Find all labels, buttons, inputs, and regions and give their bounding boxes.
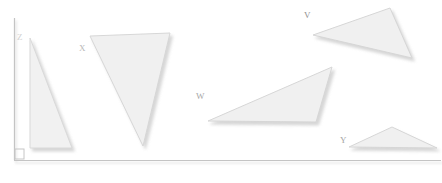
- triangle-w-shape[interactable]: [208, 67, 332, 122]
- figure-svg: [0, 0, 442, 183]
- triangle-y-label: Y: [340, 136, 347, 145]
- triangle-w-label: W: [196, 92, 205, 101]
- right-angle-marker: [15, 149, 24, 159]
- triangle-group: [30, 8, 437, 148]
- triangle-v-label: V: [304, 11, 311, 20]
- triangle-y-shape[interactable]: [349, 127, 437, 148]
- triangle-x-shape[interactable]: [90, 33, 170, 146]
- triangle-x-label: X: [79, 44, 86, 53]
- triangle-z-shape[interactable]: [30, 38, 72, 148]
- figure-canvas: Z X W V Y: [0, 0, 442, 183]
- triangle-z-label: Z: [17, 33, 23, 42]
- triangle-v-shape[interactable]: [313, 8, 412, 58]
